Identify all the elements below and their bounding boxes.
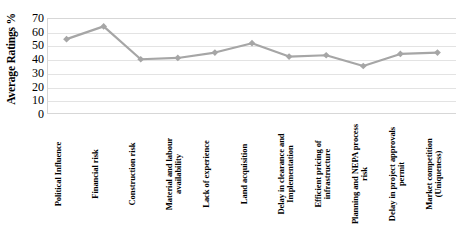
x-axis-category-label: Construction risk [128, 119, 146, 229]
series-line [48, 19, 456, 113]
x-axis-category-label: Financial risk [91, 119, 109, 229]
x-axis-category-label-text: Financial risk [91, 119, 100, 229]
data-point-marker [323, 52, 330, 59]
x-axis-category-label-text: Lack of experience [202, 119, 211, 229]
y-axis-title: Average Ratings % [0, 0, 22, 118]
x-axis-category-label: Land acquisition [240, 119, 258, 229]
y-axis-tick-label: 20 [32, 81, 44, 93]
x-axis-category-label-text: Political Influence [54, 119, 63, 229]
data-point-marker [174, 55, 181, 62]
x-axis-category-label: Lack of experience [202, 119, 220, 229]
x-axis-category-label-text: Market competition (Uniqueness) [425, 119, 444, 229]
y-axis-tick-label: 0 [38, 108, 44, 120]
x-axis-category-label: Delay in project approvals permit [388, 119, 406, 229]
y-axis-tick-label: 30 [32, 67, 44, 79]
y-axis-tick-labels: 706050403020100 [22, 12, 46, 116]
y-axis-title-text: Average Ratings % [5, 13, 17, 105]
data-point-marker [212, 49, 219, 56]
data-point-marker [286, 53, 293, 60]
x-axis-category-label: Efficient pricing of infrastructure [314, 119, 332, 229]
x-axis-category-label-text: Planning and NEPA process risk [351, 119, 370, 229]
y-axis-tick-label: 40 [32, 53, 44, 65]
x-axis-category-label: Delay in clearance and Implementation [277, 119, 295, 229]
plot-area [47, 18, 456, 114]
x-axis-category-label-text: Land acquisition [240, 119, 249, 229]
y-axis-tick-label: 60 [32, 26, 44, 38]
x-axis-category-label: Political Influence [54, 119, 72, 229]
data-point-marker [249, 40, 256, 47]
x-axis-category-label: Planning and NEPA process risk [351, 119, 369, 229]
x-axis-category-label-text: Delay in clearance and Implementation [277, 119, 296, 229]
y-axis-tick-label: 70 [32, 12, 44, 24]
x-axis-category-label: Material and labour availability [165, 119, 183, 229]
y-axis-tick-label: 50 [32, 39, 44, 51]
x-axis-category-label-text: Material and labour availability [165, 119, 184, 229]
y-axis-tick-label: 10 [32, 94, 44, 106]
data-point-marker [434, 49, 441, 56]
x-axis-category-label-text: Efficient pricing of infrastructure [314, 119, 333, 229]
data-point-marker [63, 36, 70, 43]
x-axis-category-label: Market competition (Uniqueness) [425, 119, 443, 229]
data-point-marker [360, 63, 367, 70]
chart-figure: Average Ratings % 706050403020100 Politi… [0, 0, 464, 229]
x-axis-category-label-text: Delay in project approvals permit [388, 119, 407, 229]
data-point-marker [397, 51, 404, 58]
x-axis-category-label-text: Construction risk [128, 119, 137, 229]
x-axis-category-labels: Political InfluenceFinancial riskConstru… [47, 116, 456, 229]
